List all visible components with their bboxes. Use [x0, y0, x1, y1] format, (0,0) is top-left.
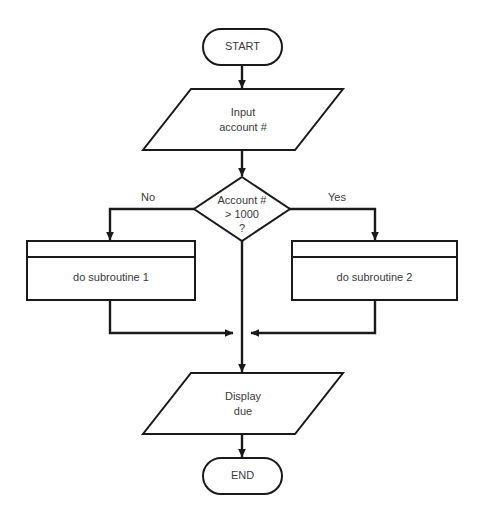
output-label-line1: Display — [225, 390, 262, 402]
input-parallelogram-shape — [143, 89, 343, 150]
subroutine1-label: do subroutine 1 — [73, 271, 149, 283]
subroutine2-label: do subroutine 2 — [337, 271, 413, 283]
flowchart-diagram: START Input account # Account # > 1000 ?… — [0, 0, 482, 520]
output-label-line2: due — [234, 405, 252, 417]
decision-label-line2: > 1000 — [225, 208, 259, 220]
branch-label-no: No — [141, 191, 155, 203]
end-label: END — [231, 469, 254, 481]
node-subroutine-right: do subroutine 2 — [292, 241, 457, 300]
start-label: START — [225, 40, 260, 52]
node-input: Input account # — [143, 89, 343, 150]
decision-label-line1: Account # — [218, 194, 268, 206]
connector-yes-branch — [289, 209, 375, 240]
connector-subroutine2-return — [251, 300, 375, 333]
node-decision: Account # > 1000 ? — [194, 177, 290, 241]
node-subroutine-left: do subroutine 1 — [27, 241, 195, 300]
node-start: START — [203, 29, 282, 65]
input-label-line1: Input — [231, 106, 255, 118]
connector-no-branch — [110, 209, 196, 240]
branch-label-yes: Yes — [328, 191, 346, 203]
output-parallelogram-shape — [143, 373, 343, 434]
node-end: END — [203, 458, 282, 494]
input-label-line2: account # — [219, 121, 268, 133]
node-output: Display due — [143, 373, 343, 434]
decision-label-line3: ? — [239, 222, 245, 234]
connector-subroutine1-return — [110, 300, 233, 333]
